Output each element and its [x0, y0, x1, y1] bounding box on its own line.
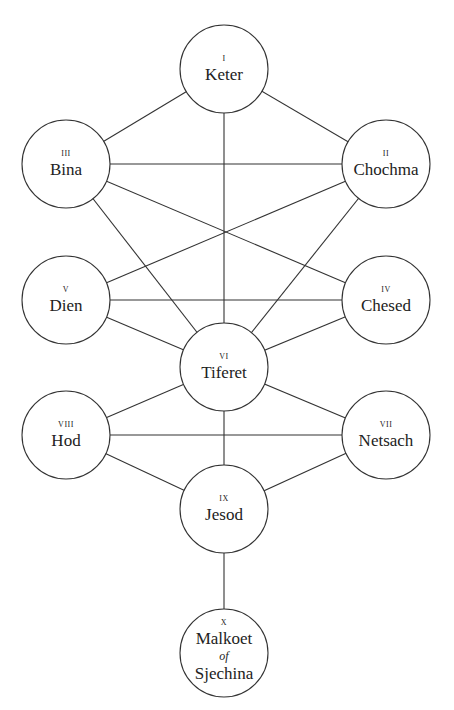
node-name: Jesod [180, 506, 268, 523]
node-label-jesod: IXJesod [180, 492, 268, 523]
node-numeral: X [180, 616, 268, 627]
node-label-keter: IKeter [180, 52, 268, 83]
node-numeral: VIII [22, 418, 110, 429]
node-numeral: VI [180, 350, 268, 361]
node-name: Dien [22, 297, 110, 314]
node-name: Chochma [342, 161, 430, 178]
node-name: Hod [22, 432, 110, 449]
node-label-netsach: VIINetsach [342, 418, 430, 449]
node-name: Tiferet [180, 364, 268, 381]
node-label-dien: VDien [22, 283, 110, 314]
node-numeral: IX [180, 492, 268, 503]
node-label-malkoet: XMalkoetofSjechina [180, 616, 268, 682]
node-label-chochma: IIChochma [342, 147, 430, 178]
node-label-chesed: IVChesed [342, 283, 430, 314]
node-name-secondary: Sjechina [180, 665, 268, 682]
node-numeral: I [180, 52, 268, 63]
node-name: Chesed [342, 297, 430, 314]
node-numeral: III [22, 147, 110, 158]
node-label-hod: VIIIHod [22, 418, 110, 449]
node-numeral: V [22, 283, 110, 294]
node-numeral: II [342, 147, 430, 158]
node-label-tiferet: VITiferet [180, 350, 268, 381]
node-name: Malkoet [180, 630, 268, 647]
node-numeral: IV [342, 283, 430, 294]
node-name: Keter [180, 66, 268, 83]
node-label-bina: IIIBina [22, 147, 110, 178]
node-name: Bina [22, 161, 110, 178]
node-numeral: VII [342, 418, 430, 429]
node-name: Netsach [342, 432, 430, 449]
node-conjunction: of [180, 650, 268, 662]
